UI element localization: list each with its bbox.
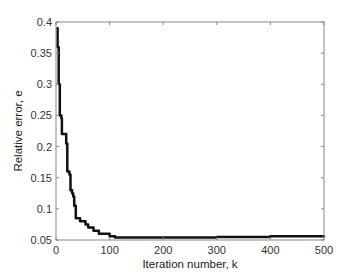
y-tick-label: 0.05 (31, 234, 52, 246)
y-tick-label: 0.35 (31, 47, 52, 59)
y-axis-label: Relative error, e (12, 90, 24, 171)
y-tick-label: 0.1 (37, 203, 52, 215)
y-tick-label: 0.15 (31, 172, 52, 184)
x-axis-label: Iteration number, k (142, 258, 237, 270)
y-tick-label: 0.4 (37, 16, 52, 28)
y-tick-label: 0.3 (37, 78, 52, 90)
plot-area (57, 28, 325, 237)
x-tick-label: 200 (154, 244, 172, 256)
y-tick-label: 0.2 (37, 141, 52, 153)
x-tick-label: 100 (100, 244, 118, 256)
x-tick-label: 300 (208, 244, 226, 256)
x-tick-label: 0 (53, 244, 59, 256)
error-curve (57, 28, 325, 237)
axes-frame (56, 22, 324, 240)
x-tick-label: 500 (315, 244, 333, 256)
x-tick-label: 400 (261, 244, 279, 256)
x-axis-ticks: 0100200300400500 (53, 22, 333, 256)
y-tick-label: 0.25 (31, 109, 52, 121)
chart: 0100200300400500 0.050.10.150.20.250.30.… (0, 0, 347, 275)
